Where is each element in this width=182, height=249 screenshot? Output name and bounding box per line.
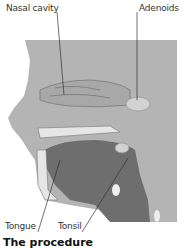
label-nasal-cavity: Nasal cavity [6,3,59,13]
tongue-shape [45,140,150,222]
tonsil-shape [115,143,129,153]
label-tongue: Tongue [5,221,36,231]
label-tonsil: Tonsil [58,221,82,231]
label-adenoids: Adenoids [139,3,179,13]
adenoids-shape [126,97,150,111]
section-title: The procedure [3,236,93,249]
